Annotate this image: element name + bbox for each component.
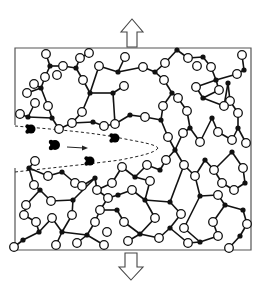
oxygen-atom xyxy=(78,182,87,191)
oxygen-atom xyxy=(207,63,216,72)
oxygen-atom xyxy=(233,70,242,79)
oxygen-atom xyxy=(68,119,77,128)
silicon-atom xyxy=(92,175,97,180)
silicon-atom xyxy=(222,202,227,207)
silicon-atom xyxy=(36,229,41,234)
oxygen-atom xyxy=(55,125,64,134)
oxygen-atom xyxy=(243,220,252,229)
oxygen-atom xyxy=(151,214,160,223)
oxygen-atom xyxy=(161,59,170,68)
oxygen-atom xyxy=(179,129,188,138)
silicon-atom xyxy=(152,69,157,74)
oxygen-atom xyxy=(180,224,189,233)
oxygen-atom xyxy=(159,102,168,111)
water-molecule xyxy=(25,124,35,133)
oxygen-atom xyxy=(143,161,152,170)
oxygen-atom xyxy=(41,73,50,82)
silicon-atom xyxy=(202,157,207,162)
arrow-down-icon xyxy=(119,253,143,280)
oxygen-atom xyxy=(48,214,57,223)
oxygen-atom xyxy=(100,241,109,250)
silicon-atom xyxy=(90,119,95,124)
oxygen-atom xyxy=(155,234,164,243)
oxygen-atom xyxy=(120,218,129,227)
oxygen-atom xyxy=(124,237,133,246)
silicon-atom xyxy=(169,90,174,95)
silicon-atom xyxy=(167,225,172,230)
silicon-atom xyxy=(187,125,192,130)
si-o-bond xyxy=(62,232,87,235)
oxygen-atom xyxy=(93,186,102,195)
oxygen-atom xyxy=(91,218,100,227)
oxygen-atom xyxy=(192,83,201,92)
silicon-atom xyxy=(235,125,240,130)
motion-arrow xyxy=(67,146,88,151)
silicon-atom xyxy=(137,231,142,236)
oxygen-atom xyxy=(184,54,193,63)
oxygen-atom xyxy=(239,164,248,173)
oxygen-atom xyxy=(234,109,243,118)
oxygen-atom xyxy=(214,191,223,200)
oxygen-atom xyxy=(44,102,53,111)
silicon-atom xyxy=(47,63,52,68)
silicon-atom xyxy=(20,237,25,242)
silicon-atom xyxy=(241,67,246,72)
oxygen-atom xyxy=(183,107,192,116)
oxygen-atom xyxy=(31,157,40,166)
silicon-atom xyxy=(172,147,177,152)
oxygen-atom xyxy=(242,139,251,148)
oxygen-atom xyxy=(20,211,29,220)
oxygen-atom xyxy=(79,76,88,85)
silicon-atom xyxy=(167,199,172,204)
silicon-atom xyxy=(25,114,30,119)
oxygen-atom xyxy=(196,138,205,147)
oxygen-atom xyxy=(42,50,51,59)
si-o-bond xyxy=(184,196,200,228)
si-o-bond xyxy=(170,165,184,202)
oxygen-atom xyxy=(139,63,148,72)
arrow-up-icon xyxy=(121,19,143,47)
silicon-atom xyxy=(114,207,119,212)
oxygen-atom xyxy=(160,76,169,85)
crack-upper-face xyxy=(15,126,158,148)
oxygen-atom xyxy=(214,128,223,137)
oxygen-atom xyxy=(53,71,62,80)
oxygen-atom xyxy=(220,102,229,111)
silicon-atom xyxy=(127,112,132,117)
silicon-atom xyxy=(115,192,120,197)
silicon-atom xyxy=(225,80,230,85)
si-o-bond xyxy=(23,232,39,240)
oxygen-atom xyxy=(85,49,94,58)
silicon-atom xyxy=(142,197,147,202)
oxygen-atom xyxy=(30,181,39,190)
motion-arrow-shaft xyxy=(67,147,84,148)
oxygen-atom xyxy=(73,239,82,248)
oxygen-atom xyxy=(76,54,85,63)
oxygen-atom xyxy=(121,53,130,62)
silicon-atom xyxy=(200,54,205,59)
silicon-atom xyxy=(200,95,205,100)
oxygen-atom xyxy=(162,156,171,165)
oxygen-atom xyxy=(225,244,234,253)
oxygen-atom xyxy=(218,179,227,188)
oxygen-atom xyxy=(177,210,186,219)
oxygen-atom xyxy=(95,62,104,71)
silicon-atom xyxy=(26,165,31,170)
si-o-bond xyxy=(145,200,170,202)
silicon-atom xyxy=(73,65,78,70)
silicon-atom xyxy=(132,174,137,179)
oxygen-atom xyxy=(52,241,61,250)
silicon-atom xyxy=(70,197,75,202)
silicon-atom xyxy=(213,77,218,82)
oxygen-atom xyxy=(180,161,189,170)
silicon-atom xyxy=(59,229,64,234)
glass-crack-diagram xyxy=(0,0,267,292)
oxygen-atom xyxy=(22,201,31,210)
oxygen-atom xyxy=(141,113,150,122)
arrow-head-icon xyxy=(82,146,88,151)
oxygen-atom xyxy=(100,122,109,131)
oxygen-atom xyxy=(32,218,41,227)
oxygen-atom xyxy=(215,86,224,95)
silicon-atom xyxy=(237,233,242,238)
oxygen-atom xyxy=(47,197,56,206)
